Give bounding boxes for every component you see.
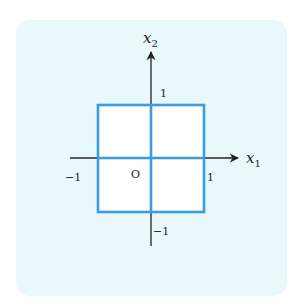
- x-tick-neg: −1: [65, 171, 81, 184]
- x-axis-label: x1: [246, 149, 261, 169]
- coordinate-diagram: x2 x1 1 −1 1 −1 O: [0, 0, 299, 307]
- x-tick-pos: 1: [207, 171, 214, 184]
- origin-label: O: [131, 168, 140, 181]
- y-axis-label: x2: [143, 29, 158, 49]
- y-tick-neg: −1: [153, 225, 169, 238]
- y-tick-pos: 1: [160, 87, 167, 100]
